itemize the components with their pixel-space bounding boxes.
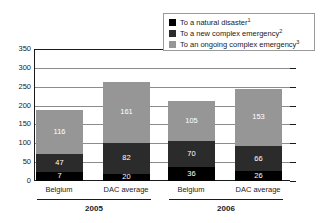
bar-segment-ongoing: 153 <box>235 89 282 147</box>
y-tick-mark <box>290 106 296 107</box>
bar-dac-average-2005[interactable]: 161 82 20 <box>103 82 150 181</box>
legend-swatch-icon <box>169 41 176 48</box>
y-axis-tick-label: 100 <box>1 139 31 147</box>
bar-value-label: 82 <box>122 154 130 162</box>
x-axis-label-belgium-2006: Belgium <box>156 185 226 194</box>
legend-label: To a new complex emergency2 <box>180 30 282 38</box>
legend-swatch-icon <box>169 30 176 37</box>
bar-value-label: 161 <box>120 108 133 116</box>
legend-footnote-marker: 1 <box>248 16 251 22</box>
y-axis-tick-label: 300 <box>1 64 31 72</box>
group-label-2006: 2006 <box>166 204 286 213</box>
legend-item-natural-disaster[interactable]: To a natural disaster1 <box>169 17 310 28</box>
y-tick-mark <box>290 124 296 125</box>
y-axis-tick-label: 200 <box>1 102 31 110</box>
legend-label: To an ongoing complex emergency3 <box>180 41 299 49</box>
bar-value-label: 36 <box>187 170 195 178</box>
bar-segment-ongoing: 116 <box>36 110 83 154</box>
group-label-2005: 2005 <box>34 204 154 213</box>
legend-item-new-complex-emergency[interactable]: To a new complex emergency2 <box>169 28 310 39</box>
bar-dac-average-2006[interactable]: 153 66 26 <box>235 89 282 181</box>
stacked-bar-chart: 350 300 250 200 150 100 50 0 116 47 7 <box>0 0 323 223</box>
y-axis-tick-label: 150 <box>1 120 31 128</box>
bar-segment-ongoing: 161 <box>103 82 150 143</box>
legend-item-ongoing-complex-emergency[interactable]: To an ongoing complex emergency3 <box>169 39 310 50</box>
bar-segment-new: 82 <box>103 143 150 174</box>
bar-value-label: 153 <box>252 113 265 121</box>
bar-value-label: 47 <box>55 159 63 167</box>
bar-segment-new: 70 <box>168 141 215 167</box>
bar-segment-natural: 36 <box>168 167 215 181</box>
y-tick-mark <box>290 162 296 163</box>
x-axis-label-belgium-2005: Belgium <box>24 185 94 194</box>
x-axis-label-dac-average-2006: DAC average <box>223 185 293 194</box>
y-axis-tick-label: 350 <box>1 45 31 53</box>
bar-value-label: 116 <box>54 128 66 136</box>
y-tick-mark <box>290 143 296 144</box>
y-tick-mark <box>290 87 296 88</box>
bar-value-label: 7 <box>57 172 61 180</box>
y-axis-tick-label: 250 <box>1 83 31 91</box>
bar-segment-natural: 26 <box>235 171 282 181</box>
bar-value-label: 20 <box>122 174 130 182</box>
y-tick-mark <box>290 181 296 182</box>
bar-value-label: 26 <box>254 172 262 180</box>
bar-segment-ongoing: 105 <box>168 101 215 141</box>
legend-label: To a natural disaster1 <box>180 19 251 27</box>
bar-belgium-2006[interactable]: 105 70 36 <box>168 101 215 181</box>
x-axis-label-dac-average-2005: DAC average <box>91 185 161 194</box>
legend-swatch-icon <box>169 19 176 26</box>
bar-value-label: 105 <box>185 117 198 125</box>
y-axis-tick-label: 0 <box>1 177 31 185</box>
bar-segment-new: 66 <box>235 146 282 171</box>
y-axis-tick-label: 50 <box>1 158 31 166</box>
bar-value-label: 66 <box>254 155 262 163</box>
bar-series-group: 116 47 7 161 82 20 105 <box>34 49 290 181</box>
y-tick-mark <box>290 68 296 69</box>
bar-belgium-2005[interactable]: 116 47 7 <box>36 110 83 181</box>
bar-segment-natural: 7 <box>36 172 83 181</box>
legend-footnote-marker: 3 <box>296 38 299 44</box>
bar-segment-new: 47 <box>36 154 83 172</box>
chart-legend: To a natural disaster1 To a new complex … <box>163 13 315 51</box>
group-rule-2006 <box>169 199 283 200</box>
legend-footnote-marker: 2 <box>279 27 282 33</box>
group-rule-2005 <box>37 199 151 200</box>
bar-segment-natural: 20 <box>103 174 150 182</box>
bar-value-label: 70 <box>187 150 195 158</box>
